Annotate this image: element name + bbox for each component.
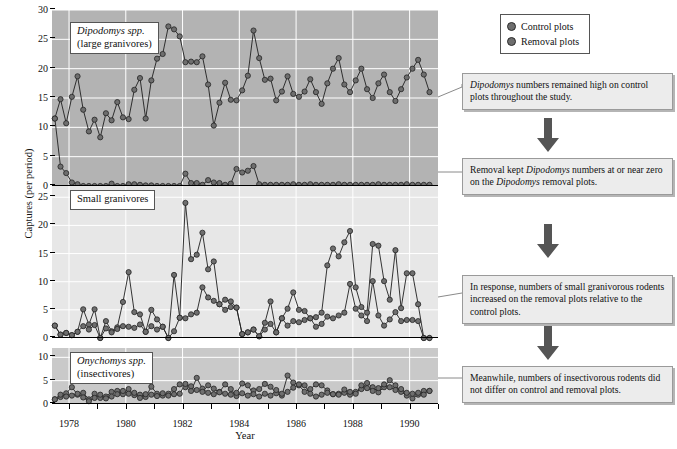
x-tick-label: 1984 — [219, 418, 259, 429]
x-tick-label: 1978 — [49, 418, 89, 429]
note-small-granivores-increase: In response, numbers of small granivorou… — [462, 275, 673, 324]
y-tick-label: 10 — [22, 122, 48, 132]
panel-title-small-granivores: Small granivores — [70, 190, 155, 210]
y-tick-label: 10 — [22, 277, 48, 287]
removal-marker-icon — [507, 37, 516, 46]
x-tick-mark — [239, 404, 240, 409]
note-dipodomys-control: Dipodomys numbers remained high on contr… — [462, 73, 673, 110]
y-tick-label: 5 — [22, 305, 48, 315]
y-tick-label: 5 — [22, 152, 48, 162]
panel-baseline — [52, 337, 438, 338]
legend-label: Removal plots — [521, 34, 579, 49]
note-text: Removal kept Dipodomys numbers at or nea… — [470, 164, 663, 187]
y-tick-label: 20 — [22, 64, 48, 74]
panel-title-line1: Onychomys spp. — [77, 355, 146, 366]
x-tick-mark — [268, 404, 269, 409]
x-tick-mark — [410, 404, 411, 409]
legend: Control plots Removal plots — [500, 14, 590, 54]
x-tick-mark — [183, 404, 184, 409]
flow-arrow-1-icon — [535, 118, 561, 154]
y-tick-label: 25 — [22, 34, 48, 44]
x-axis-label: Year — [52, 430, 438, 441]
panel-title-onychomys: Onychomys spp. (insectivores) — [70, 352, 153, 384]
legend-item-control: Control plots — [507, 19, 579, 34]
panel-title-line1: Dipodomys spp. — [77, 25, 145, 36]
panel-title-dipodomys: Dipodomys spp. (large granivores) — [70, 22, 159, 54]
note-text: In response, numbers of small granivorou… — [470, 281, 664, 317]
note-text: Dipodomys numbers remained high on contr… — [470, 79, 648, 102]
panel-title-line2: (insectivores) — [77, 368, 134, 379]
flow-arrow-3-icon — [535, 326, 561, 362]
x-tick-mark — [211, 404, 212, 409]
x-tick-label: 1980 — [106, 418, 146, 429]
x-tick-mark — [296, 404, 297, 409]
y-tick-label: 0 — [22, 333, 48, 343]
legend-item-removal: Removal plots — [507, 34, 579, 49]
x-tick-mark — [381, 404, 382, 409]
x-tick-mark — [69, 404, 70, 409]
y-tick-label: 25 — [22, 192, 48, 202]
x-tick-label: 1982 — [163, 418, 203, 429]
x-tick-mark — [324, 404, 325, 409]
x-tick-mark — [438, 404, 439, 409]
panel-title-line2: (large granivores) — [77, 38, 152, 49]
y-tick-label: 0 — [22, 181, 48, 191]
x-tick-mark — [154, 404, 155, 409]
y-tick-label: 5 — [22, 376, 48, 386]
note-removal-zero: Removal kept Dipodomys numbers at or nea… — [462, 158, 673, 195]
x-tick-mark — [97, 404, 98, 409]
control-marker-icon — [507, 22, 516, 31]
panel-title-line1: Small granivores — [77, 193, 148, 204]
x-tick-label: 1990 — [390, 418, 430, 429]
y-tick-label: 10 — [22, 352, 48, 362]
legend-label: Control plots — [521, 19, 574, 34]
x-tick-label: 1988 — [333, 418, 373, 429]
x-tick-mark — [126, 404, 127, 409]
y-tick-label: 15 — [22, 249, 48, 259]
y-tick-label: 20 — [22, 220, 48, 230]
x-tick-mark — [353, 404, 354, 409]
note-text: Meanwhile, numbers of insectivorous rode… — [470, 372, 660, 395]
x-tick-label: 1986 — [276, 418, 316, 429]
flow-arrow-2-icon — [535, 224, 561, 260]
y-tick-label: 30 — [22, 5, 48, 15]
note-insectivores-nodiff: Meanwhile, numbers of insectivorous rode… — [462, 366, 673, 403]
y-tick-label: 15 — [22, 93, 48, 103]
figure-root: Captures (per period) Dipodomys spp. (la… — [0, 0, 677, 449]
